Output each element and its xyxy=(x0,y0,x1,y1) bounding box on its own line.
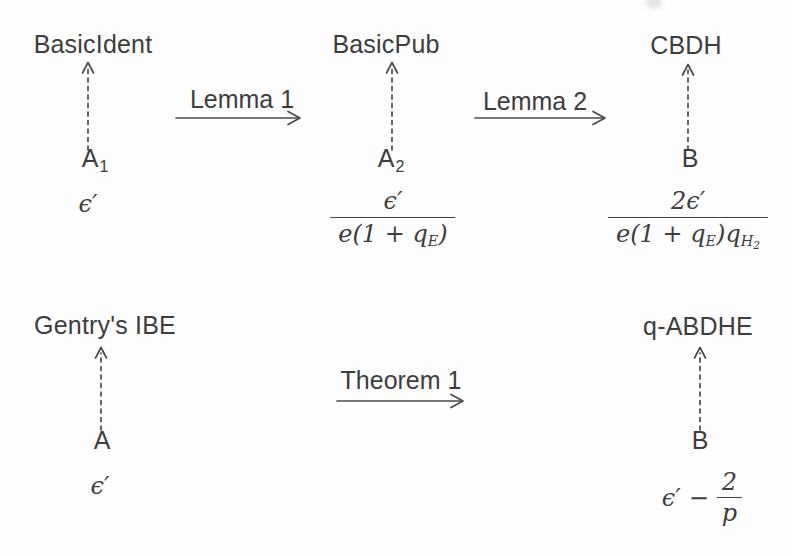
reduction-diagram: BasicIdent BasicPub CBDH Lemma 1 Lemma 2… xyxy=(0,0,792,558)
theorem-1-label: Theorem 1 xyxy=(341,368,462,393)
advantage-cbdh-numerator: 2ϵ′ xyxy=(663,189,713,217)
den-subscript: E xyxy=(706,233,717,249)
den-subscript: E xyxy=(428,233,439,249)
den-subsubscript: 2 xyxy=(753,239,760,251)
right-arrow-icon xyxy=(337,392,465,410)
advantage-basicpub-denominator: e(1 + qE) xyxy=(330,217,455,246)
advantage-gentrys-ibe: ϵ′ xyxy=(91,474,110,498)
right-arrow-icon xyxy=(176,109,302,127)
adversary-a2: A2 xyxy=(378,146,405,171)
adversary-b-bottom: B xyxy=(692,428,709,453)
up-arrow-icon xyxy=(93,345,109,432)
advantage-basicpub-numerator: ϵ′ xyxy=(376,189,411,217)
advantage-q-abdhe: ϵ′ − 2 p xyxy=(662,470,742,525)
up-arrow-icon xyxy=(680,62,696,152)
den-term: ) xyxy=(438,220,447,248)
scan-artifact xyxy=(646,0,662,8)
fraction-denominator: p xyxy=(717,497,742,525)
den-subscript: H xyxy=(741,233,754,249)
adversary-a: A xyxy=(94,428,111,453)
den-term: e(1 + q xyxy=(616,220,706,248)
den-term: )q xyxy=(716,220,741,248)
den-term: e(1 + q xyxy=(338,220,428,248)
fraction-numerator: 2 xyxy=(717,470,742,497)
adversary-b: B xyxy=(682,146,699,171)
scheme-q-abdhe: q-ABDHE xyxy=(643,314,753,339)
adversary-a-base: A xyxy=(94,426,111,454)
adversary-a2-base: A xyxy=(378,144,395,172)
advantage-basicpub: ϵ′ e(1 + qE) xyxy=(330,189,455,246)
right-arrow-icon xyxy=(475,109,607,127)
adversary-b-base: B xyxy=(682,144,699,172)
advantage-q-abdhe-fraction: 2 p xyxy=(717,470,742,525)
adversary-a2-subscript: 2 xyxy=(395,158,404,175)
up-arrow-icon xyxy=(80,60,96,152)
minus-operator: − xyxy=(689,486,709,510)
scheme-basicident: BasicIdent xyxy=(34,32,153,57)
advantage-basicident: ϵ′ xyxy=(79,192,98,216)
adversary-b-bottom-base: B xyxy=(692,426,709,454)
adversary-a1-base: A xyxy=(82,144,99,172)
scheme-basicpub: BasicPub xyxy=(332,32,439,57)
advantage-q-abdhe-lhs: ϵ′ xyxy=(662,486,681,510)
adversary-a1: A1 xyxy=(82,146,109,171)
scheme-cbdh: CBDH xyxy=(650,33,722,58)
up-arrow-icon xyxy=(384,60,400,152)
scheme-gentrys-ibe: Gentry's IBE xyxy=(34,313,176,338)
adversary-a1-subscript: 1 xyxy=(99,158,108,175)
up-arrow-icon xyxy=(692,345,708,432)
advantage-cbdh-denominator: e(1 + qE)qH2 xyxy=(608,217,768,246)
advantage-cbdh: 2ϵ′ e(1 + qE)qH2 xyxy=(608,189,768,246)
